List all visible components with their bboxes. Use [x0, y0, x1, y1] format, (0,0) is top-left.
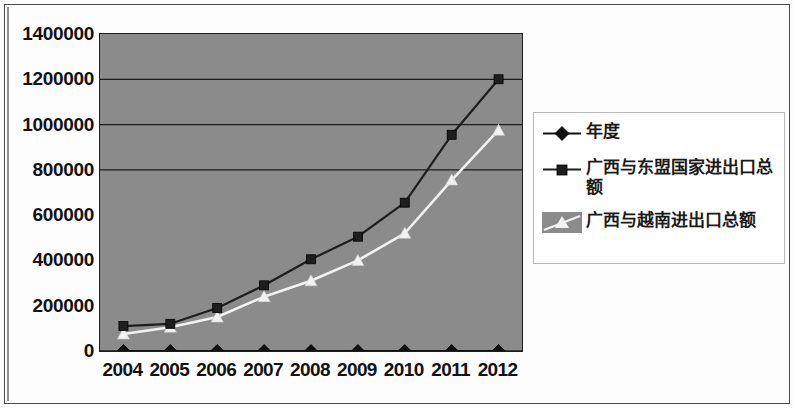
y-axis: 1400000120000010000008000006000004000002…	[8, 0, 94, 408]
marker-diamond	[445, 345, 458, 352]
marker-triangle	[493, 124, 505, 135]
x-axis-tick-label: 2011	[427, 360, 474, 392]
data-point	[400, 198, 409, 207]
marker-square	[213, 303, 222, 312]
data-point	[494, 75, 503, 84]
series-line	[123, 79, 498, 326]
legend-item-label: 广西与东盟国家进出口总额	[586, 158, 780, 197]
marker-diamond	[351, 345, 364, 352]
y-axis-tick-label: 600000	[8, 205, 94, 224]
legend-item[interactable]: 年度	[542, 122, 780, 144]
x-axis-tick-label: 2010	[380, 360, 427, 392]
x-axis-tick-label: 2004	[99, 360, 146, 392]
marker-square	[166, 319, 175, 328]
x-axis-tick-label: 2007	[240, 360, 287, 392]
legend-line-diamond-icon	[542, 123, 582, 144]
marker-square	[353, 232, 362, 241]
marker-square	[119, 322, 128, 331]
data-point	[119, 322, 128, 331]
x-axis-tick-label: 2005	[146, 360, 193, 392]
scanned-page: 1400000120000010000008000006000004000002…	[0, 0, 794, 408]
legend-item-label: 年度	[586, 122, 620, 142]
y-axis-tick-label: 0	[8, 341, 94, 360]
plot-area	[99, 33, 523, 352]
marker-diamond	[117, 345, 130, 352]
data-point	[211, 345, 224, 352]
data-point	[166, 319, 175, 328]
marker-diamond	[492, 345, 505, 352]
y-axis-tick-label: 400000	[8, 250, 94, 269]
x-axis-tick-label: 2006	[193, 360, 240, 392]
legend-item-label: 广西与越南进出口总额	[586, 211, 756, 231]
data-point	[398, 345, 411, 352]
marker-square	[307, 255, 316, 264]
data-point	[445, 345, 458, 352]
marker-square	[494, 75, 503, 84]
marker-diamond	[398, 345, 411, 352]
y-axis-tick-label: 1000000	[8, 114, 94, 133]
x-axis-tick-label: 2009	[333, 360, 380, 392]
x-axis-tick-label: 2008	[287, 360, 334, 392]
data-point	[213, 303, 222, 312]
y-axis-tick-label: 1200000	[8, 69, 94, 88]
data-point	[447, 130, 456, 139]
y-axis-tick-label: 800000	[8, 159, 94, 178]
data-point	[117, 345, 130, 352]
data-point	[258, 345, 271, 352]
marker-square	[447, 130, 456, 139]
chart-legend: 年度广西与东盟国家进出口总额广西与越南进出口总额	[533, 112, 785, 264]
x-axis-tick-label: 2012	[474, 360, 521, 392]
data-point	[164, 345, 177, 352]
data-point	[307, 255, 316, 264]
y-axis-tick-label: 1400000	[8, 24, 94, 43]
marker-diamond	[164, 345, 177, 352]
marker-triangle	[352, 254, 364, 265]
data-point	[353, 232, 362, 241]
plot-canvas	[100, 34, 522, 351]
series-line	[123, 130, 498, 334]
legend-line-square-icon	[542, 159, 582, 180]
legend-item[interactable]: 广西与东盟国家进出口总额	[542, 158, 780, 197]
legend-swatch-triangle-icon	[542, 212, 582, 233]
data-point	[260, 281, 269, 290]
y-axis-tick-label: 200000	[8, 295, 94, 314]
data-point	[305, 345, 318, 352]
marker-diamond	[211, 345, 224, 352]
data-point	[351, 345, 364, 352]
marker-square	[400, 198, 409, 207]
x-axis: 200420052006200720082009201020112012	[99, 360, 521, 392]
legend-item[interactable]: 广西与越南进出口总额	[542, 211, 780, 233]
marker-diamond	[258, 345, 271, 352]
data-point	[492, 345, 505, 352]
marker-diamond	[305, 345, 318, 352]
data-point	[493, 124, 505, 135]
line-chart: 1400000120000010000008000006000004000002…	[0, 0, 794, 408]
marker-square	[260, 281, 269, 290]
data-point	[352, 254, 364, 265]
